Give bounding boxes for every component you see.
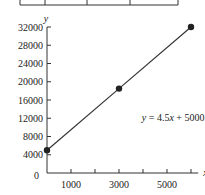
y-axis-label: y [43,13,49,24]
equation-annotation: y = 4.5x + 5000 [141,112,205,123]
y-tick-label: 16000 [18,95,43,106]
x-axis-label: x [202,167,205,178]
y-tick-label: 32000 [18,22,43,33]
y-tick-label: 4000 [23,149,43,160]
y-tick-label: 20000 [18,76,43,87]
data-point [188,24,194,30]
y-tick-label: 24000 [18,58,43,69]
data-point [116,85,122,91]
y-tick-label: 12000 [18,113,43,124]
y-tick-label: 8000 [23,131,43,142]
y-tick-label: 28000 [18,40,43,51]
origin-label: 0 [34,170,39,181]
x-tick-label: 1000 [61,179,81,190]
line-chart: 4000800012000160002000024000280003200010… [0,0,205,195]
x-tick-label: 3000 [109,179,129,190]
data-point [44,147,50,153]
x-tick-label: 5000 [157,179,177,190]
